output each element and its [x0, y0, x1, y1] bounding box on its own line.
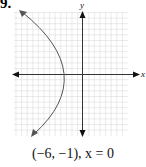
y-axis-top-arrow-icon [80, 11, 86, 18]
y-axis-bottom-arrow-icon [80, 130, 86, 137]
coordinate-graph: x y [0, 0, 146, 167]
curve-top-arrow-icon [19, 10, 27, 17]
parabola-curve [22, 12, 64, 134]
answer-caption: (−6, −1), x = 0 [0, 146, 146, 162]
x-axis-label: x [140, 69, 145, 79]
y-axis-label: y [79, 0, 84, 10]
x-axis-left-arrow-icon [12, 72, 19, 78]
x-axis-right-arrow-icon [133, 72, 140, 78]
